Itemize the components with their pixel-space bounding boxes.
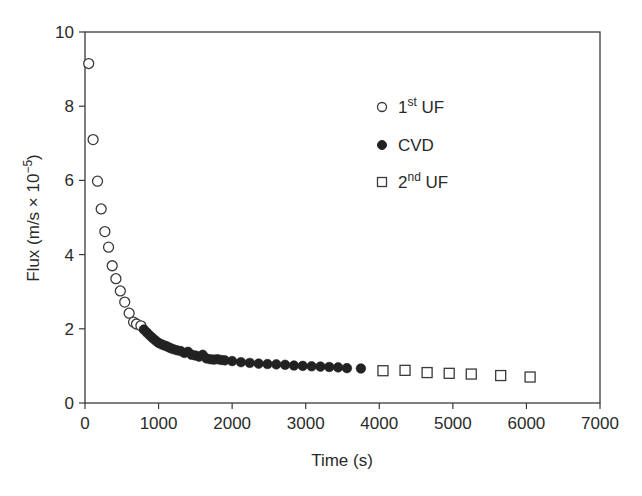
legend: 1st UF CVD 2nd UF (378, 95, 449, 192)
x-tick-label: 6000 (508, 414, 546, 433)
data-point (120, 297, 130, 307)
data-point (115, 286, 125, 296)
x-tick-label: 3000 (287, 414, 325, 433)
filled-circle-marker-icon (378, 141, 387, 150)
data-point (227, 356, 237, 366)
data-point (324, 362, 334, 372)
data-point (111, 274, 121, 284)
data-point (88, 135, 98, 145)
y-axis-ticks: 0246810 (55, 23, 85, 413)
x-tick-label: 4000 (360, 414, 398, 433)
x-tick-label: 0 (80, 414, 89, 433)
legend-item-cvd: CVD (378, 136, 434, 155)
data-point (93, 176, 103, 186)
data-point (356, 364, 366, 374)
x-tick-label: 2000 (213, 414, 251, 433)
legend-label: CVD (398, 136, 434, 155)
data-point (525, 372, 535, 382)
data-point (342, 363, 352, 373)
data-point (298, 361, 308, 371)
data-point (422, 368, 432, 378)
data-point (466, 369, 476, 379)
flux-time-chart: 01000200030004000500060007000 0246810 Ti… (0, 0, 642, 496)
y-axis-title-exponent: −5 (21, 160, 35, 174)
y-tick-label: 6 (65, 171, 74, 190)
data-point (280, 360, 290, 370)
data-point (254, 359, 264, 369)
legend-label: 1st UF (398, 95, 444, 117)
data-point (271, 360, 281, 370)
data-point (289, 361, 299, 371)
data-point (100, 227, 110, 237)
x-tick-label: 7000 (581, 414, 619, 433)
data-point (444, 368, 454, 378)
data-point (84, 59, 94, 69)
y-axis-title-close: ) (24, 154, 43, 160)
y-axis-title: Flux (m/s × 10−5) (21, 154, 43, 282)
y-tick-label: 8 (65, 97, 74, 116)
data-point (316, 362, 326, 372)
y-tick-label: 2 (65, 320, 74, 339)
data-point (107, 261, 117, 271)
data-series (84, 59, 535, 382)
y-tick-label: 10 (55, 23, 74, 42)
x-axis-title: Time (s) (311, 451, 373, 470)
legend-item-1st-uf: 1st UF (378, 95, 445, 117)
open-circle-marker-icon (378, 103, 387, 112)
data-point (263, 359, 273, 369)
data-point (96, 204, 106, 214)
data-point (245, 358, 255, 368)
legend-label: 2nd UF (398, 170, 448, 192)
data-point (307, 361, 317, 371)
data-point (378, 366, 388, 376)
y-axis-title-main: Flux (m/s × 10 (24, 174, 43, 282)
data-point (333, 363, 343, 373)
series-cvd (139, 325, 366, 374)
data-point (104, 242, 114, 252)
data-point (496, 371, 506, 381)
y-tick-label: 4 (65, 246, 74, 265)
legend-item-2nd-uf: 2nd UF (378, 170, 449, 192)
x-tick-label: 5000 (434, 414, 472, 433)
x-tick-label: 1000 (140, 414, 178, 433)
series-1st-uf (84, 59, 146, 331)
x-axis-ticks: 01000200030004000500060007000 (80, 403, 619, 433)
y-tick-label: 0 (65, 394, 74, 413)
data-point (400, 365, 410, 375)
open-square-marker-icon (378, 178, 387, 187)
data-point (236, 357, 246, 367)
series-2nd-uf (378, 365, 535, 382)
